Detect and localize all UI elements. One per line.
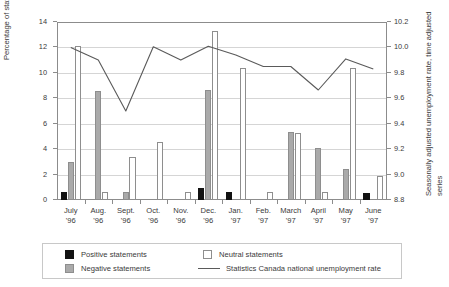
chart-legend: Positive statements Neutral statements N… bbox=[42, 243, 402, 279]
legend-label-negative: Negative statements bbox=[81, 264, 150, 273]
chart-root: Percentage of statements about unemploym… bbox=[0, 0, 449, 287]
positive-swatch bbox=[65, 250, 74, 259]
legend-item-line: Statistics Canada national unemployment … bbox=[198, 264, 381, 273]
legend-item-neutral: Neutral statements bbox=[203, 250, 283, 259]
legend-item-positive: Positive statements bbox=[65, 250, 147, 259]
legend-label-line: Statistics Canada national unemployment … bbox=[226, 264, 381, 273]
unemployment-rate-polyline bbox=[71, 46, 374, 111]
negative-swatch bbox=[65, 264, 74, 273]
legend-item-negative: Negative statements bbox=[65, 264, 150, 273]
legend-label-positive: Positive statements bbox=[81, 250, 147, 259]
line-swatch bbox=[198, 264, 220, 273]
neutral-swatch bbox=[203, 250, 212, 259]
legend-label-neutral: Neutral statements bbox=[219, 250, 283, 259]
